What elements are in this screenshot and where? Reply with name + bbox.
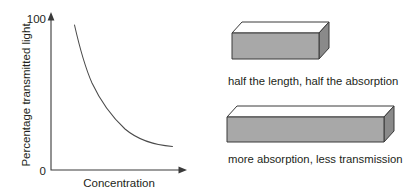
short-box-group: [232, 22, 329, 59]
absorption-boxes-svg: half the length, half the absorption mor…: [207, 0, 414, 194]
long-box-top-face: [227, 106, 394, 117]
transmission-chart-svg: 100 0 Percentage transmitted light Conce…: [0, 0, 207, 194]
transmission-chart-panel: 100 0 Percentage transmitted light Conce…: [0, 0, 207, 194]
long-box-group: [227, 106, 394, 142]
figure-root: 100 0 Percentage transmitted light Conce…: [0, 0, 414, 194]
short-box-caption: half the length, half the absorption: [228, 75, 398, 87]
y-axis-tick-0: 0: [40, 165, 46, 177]
short-box-front-face: [232, 33, 319, 59]
x-axis-title: Concentration: [83, 177, 155, 189]
chart-axes: [48, 12, 187, 173]
y-axis-tick-100: 100: [27, 13, 46, 25]
transmission-curve: [75, 25, 173, 147]
absorption-boxes-panel: half the length, half the absorption mor…: [207, 0, 414, 194]
long-box-caption: more absorption, less transmission: [228, 153, 403, 165]
long-box-front-face: [227, 117, 384, 142]
y-axis-arrow-icon: [48, 12, 55, 21]
axis-lines: [51, 19, 180, 170]
y-axis-title: Percentage transmitted light: [20, 23, 32, 167]
short-box-top-face: [232, 22, 329, 33]
x-axis-arrow-icon: [179, 167, 188, 174]
